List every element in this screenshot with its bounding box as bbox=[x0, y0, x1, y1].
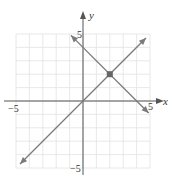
axes bbox=[4, 11, 164, 175]
x-tick-min-label: −5 bbox=[8, 104, 19, 114]
coordinate-plane bbox=[0, 0, 179, 183]
x-axis-label: x bbox=[163, 96, 168, 107]
plotted-lines bbox=[20, 35, 149, 164]
x-tick-max-label: 5 bbox=[148, 102, 153, 112]
y-tick-min-label: −5 bbox=[70, 164, 81, 174]
y-tick-max-label: 5 bbox=[77, 30, 82, 40]
y-axis-label: y bbox=[89, 10, 94, 21]
